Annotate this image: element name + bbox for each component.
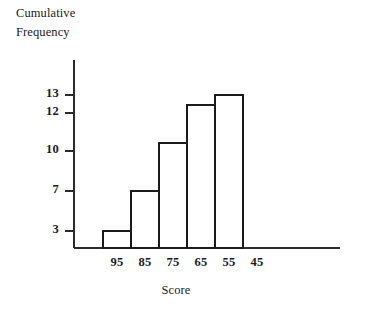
axis-ticks <box>65 95 74 231</box>
bar-95-85 <box>103 231 131 248</box>
bar-65-55 <box>187 105 215 248</box>
y-axis-tick-label-7: 7 <box>25 182 59 197</box>
x-axis-tick-label-75: 75 <box>158 255 188 270</box>
y-axis-tick-label-13: 13 <box>25 86 59 101</box>
cumulative-frequency-chart: Cumulative Frequency 13121073 9585756555… <box>0 0 366 313</box>
x-axis-tick-label-45: 45 <box>242 255 272 270</box>
bar-85-75 <box>131 191 159 248</box>
x-axis-tick-label-65: 65 <box>186 255 216 270</box>
x-axis-tick-label-85: 85 <box>130 255 160 270</box>
bar-75-65 <box>159 143 187 248</box>
x-axis-tick-label-55: 55 <box>214 255 244 270</box>
x-axis-title: Score <box>0 283 366 298</box>
y-axis-tick-label-10: 10 <box>25 142 59 157</box>
x-axis-tick-label-95: 95 <box>102 255 132 270</box>
bar-55-45 <box>215 95 243 248</box>
bars <box>103 95 243 248</box>
y-axis-tick-label-3: 3 <box>25 222 59 237</box>
y-axis-tick-label-12: 12 <box>25 104 59 119</box>
x-axis-title-text: Score <box>162 283 191 297</box>
